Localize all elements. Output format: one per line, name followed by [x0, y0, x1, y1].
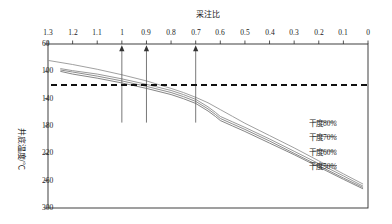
- chart-text-layer: 00.10.20.30.40.50.60.70.80.911.11.21.360…: [0, 0, 392, 224]
- legend-label: 干度70%: [309, 131, 337, 142]
- x-tick-label: 0.7: [184, 28, 208, 37]
- x-tick-label: 0.3: [282, 28, 306, 37]
- x-tick-label: 1.2: [61, 28, 85, 37]
- y-tick-label: 260: [42, 176, 53, 185]
- legend-label: 干度60%: [309, 146, 337, 157]
- x-tick-label: 0.4: [258, 28, 282, 37]
- y-tick-label: 300: [42, 203, 53, 212]
- x-tick-label: 1.1: [85, 28, 109, 37]
- x-tick-label: 0: [356, 28, 380, 37]
- x-tick-label: 0.8: [159, 28, 183, 37]
- x-tick-label: 0.6: [208, 28, 232, 37]
- y-axis-title: 井底温度/℃: [17, 128, 28, 170]
- x-axis-title: 采注比: [188, 8, 228, 19]
- x-tick-label: 1: [110, 28, 134, 37]
- legend-label: 干度50%: [309, 160, 337, 171]
- y-tick-label: 60: [42, 39, 50, 48]
- chart-figure: 00.10.20.30.40.50.60.70.80.911.11.21.360…: [0, 0, 392, 224]
- y-tick-label: 100: [42, 66, 53, 75]
- x-tick-label: 0.2: [307, 28, 331, 37]
- y-tick-label: 220: [42, 148, 53, 157]
- y-tick-label: 180: [42, 121, 53, 130]
- x-tick-label: 0.5: [233, 28, 257, 37]
- y-tick-label: 140: [42, 94, 53, 103]
- x-tick-label: 1.3: [36, 28, 60, 37]
- legend-label: 干度80%: [309, 117, 337, 128]
- x-tick-label: 0.9: [134, 28, 158, 37]
- x-tick-label: 0.1: [331, 28, 355, 37]
